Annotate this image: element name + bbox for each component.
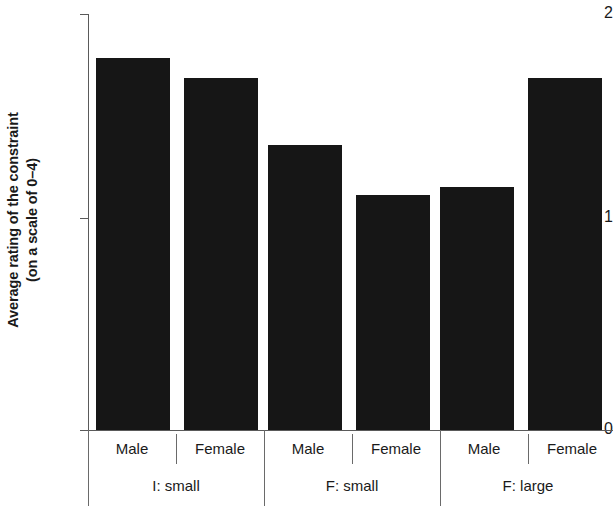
bar-female-i-small [184,78,258,430]
x-axis-divider-group-start [88,430,89,506]
y-axis-title-text: Average rating of the constraint (on a s… [4,112,42,327]
y-axis-title-line-2: (on a scale of 0–4) [23,112,42,327]
x-axis-divider-sub-1 [176,434,177,464]
bar-male-f-small [268,145,342,430]
bar-female-f-large [528,78,602,430]
x-group-label-f-small: F: small [264,466,440,504]
x-label-female-i-small: Female [176,430,264,466]
x-label-female-f-small: Female [352,430,440,466]
x-label-male-f-large: Male [440,430,528,466]
x-label-male-i-small: Male [88,430,176,466]
bar-male-f-large [440,187,514,430]
y-axis-title-line-1: Average rating of the constraint [4,112,23,327]
x-group-label-f-large: F: large [440,466,613,504]
bar-female-f-small [356,195,430,430]
x-label-male-f-small: Male [264,430,352,466]
bar-male-i-small [96,58,170,430]
x-axis-divider-group-2 [440,430,441,506]
plot-area [88,14,613,430]
x-axis-subcategory-row: Male Female Male Female Male Female [88,430,613,466]
x-group-label-i-small: I: small [88,466,264,504]
x-axis-divider-sub-2 [352,434,353,464]
bar-chart-figure: Average rating of the constraint (on a s… [0,0,613,509]
x-axis-divider-sub-3 [528,434,529,464]
x-label-female-f-large: Female [528,430,613,466]
x-axis-group-row: I: small F: small F: large [88,466,613,504]
y-axis-title: Average rating of the constraint (on a s… [0,0,46,440]
x-axis-divider-group-1 [264,430,265,506]
